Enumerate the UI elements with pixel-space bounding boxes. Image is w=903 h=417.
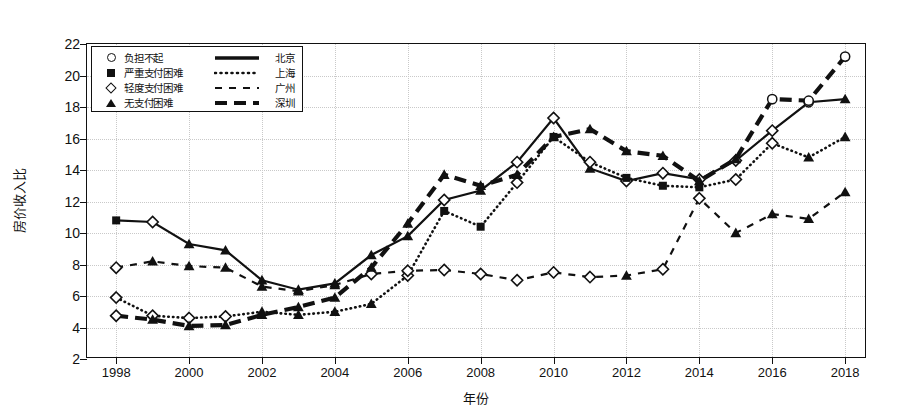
- data-point-triangle: [366, 298, 377, 308]
- y-tick-label: 12: [64, 195, 80, 209]
- x-tick-label: 2016: [758, 366, 787, 379]
- data-point-triangle: [329, 306, 340, 316]
- y-tick-label: 18: [64, 100, 80, 114]
- data-point-circle: [768, 95, 777, 104]
- data-point-square: [659, 182, 667, 190]
- legend-marker-circle-icon: [98, 53, 124, 62]
- y-tick-label: 14: [64, 163, 80, 177]
- legend-marker-label: 轻度支付困难: [124, 80, 208, 95]
- y-tick: [80, 265, 87, 266]
- data-point-triangle: [184, 261, 195, 271]
- data-point-triangle: [184, 239, 195, 249]
- chart-canvas: 房价收入比 年份 2468101214161820221998200020022…: [0, 0, 903, 417]
- data-point-square: [477, 223, 485, 231]
- data-point-diamond: [657, 264, 668, 275]
- y-tick-label: 8: [72, 258, 80, 272]
- data-point-diamond: [584, 272, 595, 283]
- y-tick: [80, 233, 87, 234]
- data-point-circle: [841, 52, 850, 61]
- legend: 负担不起北京严重支付困难上海轻度支付困难广州无支付困难深圳: [91, 46, 303, 112]
- data-point-diamond: [111, 292, 122, 303]
- x-tick-label: 2010: [539, 366, 568, 379]
- data-point-triangle: [220, 262, 231, 272]
- legend-series-label: 北京: [266, 50, 298, 65]
- x-tick-label: 1998: [102, 366, 131, 379]
- legend-series-label: 深圳: [266, 95, 298, 110]
- y-tick: [80, 296, 87, 297]
- data-point-diamond: [439, 264, 450, 275]
- y-tick-label: 20: [64, 69, 80, 83]
- circle-icon: [107, 53, 116, 62]
- legend-marker-square-icon: [98, 69, 124, 77]
- data-point-diamond: [548, 267, 559, 278]
- data-point-square: [112, 216, 120, 224]
- data-point-triangle: [366, 250, 377, 260]
- legend-line-sample: [208, 68, 266, 78]
- y-tick-label: 22: [64, 37, 80, 51]
- legend-marker-label: 负担不起: [124, 50, 208, 65]
- x-tick-label: 2000: [175, 366, 204, 379]
- diamond-icon: [105, 82, 116, 93]
- y-tick: [80, 328, 87, 329]
- legend-line-sample: [208, 83, 266, 93]
- legend-row: 轻度支付困难广州: [98, 80, 298, 95]
- y-tick-label: 4: [72, 321, 80, 335]
- data-point-diamond: [111, 262, 122, 273]
- y-tick: [80, 44, 87, 45]
- legend-marker-triangle-icon: [98, 99, 124, 107]
- series-广州: [111, 187, 851, 296]
- x-tick-label: 2004: [320, 366, 349, 379]
- data-point-diamond: [657, 168, 668, 179]
- data-point-circle: [804, 96, 813, 105]
- legend-marker-label: 无支付困难: [124, 95, 208, 110]
- x-tick-label: 2012: [612, 366, 641, 379]
- y-tick-label: 2: [72, 352, 80, 366]
- y-axis-title: 房价收入比: [9, 168, 28, 233]
- triangle-icon: [106, 99, 116, 107]
- legend-row: 无支付困难深圳: [98, 95, 298, 110]
- legend-series-label: 上海: [266, 65, 298, 80]
- data-point-triangle: [585, 124, 596, 134]
- data-point-square: [622, 174, 630, 182]
- data-point-diamond: [767, 138, 778, 149]
- legend-marker-diamond-icon: [98, 84, 124, 92]
- x-tick-label: 2018: [831, 366, 860, 379]
- data-point-square: [440, 207, 448, 215]
- legend-marker-label: 严重支付困难: [124, 65, 208, 80]
- y-tick: [80, 359, 87, 360]
- legend-row: 严重支付困难上海: [98, 65, 298, 80]
- x-tick-label: 2006: [393, 366, 422, 379]
- data-point-diamond: [694, 193, 705, 204]
- series-北京: [112, 94, 850, 294]
- y-tick-label: 16: [64, 132, 80, 146]
- x-tick-label: 2008: [466, 366, 495, 379]
- data-point-diamond: [511, 275, 522, 286]
- legend-line-sample: [208, 98, 266, 108]
- data-point-triangle: [730, 228, 741, 238]
- data-point-triangle: [840, 187, 851, 197]
- y-tick: [80, 107, 87, 108]
- data-point-triangle: [147, 256, 158, 266]
- x-tick-label: 2014: [685, 366, 714, 379]
- x-axis-title: 年份: [463, 388, 489, 407]
- y-tick-label: 10: [64, 226, 80, 240]
- data-point-diamond: [475, 268, 486, 279]
- y-tick: [80, 202, 87, 203]
- data-point-diamond: [147, 216, 158, 227]
- square-icon: [107, 69, 115, 77]
- data-point-diamond: [111, 310, 122, 321]
- data-point-diamond: [584, 157, 595, 168]
- legend-line-sample: [208, 53, 266, 63]
- y-tick: [80, 76, 87, 77]
- legend-row: 负担不起北京: [98, 50, 298, 65]
- y-tick-label: 6: [72, 289, 80, 303]
- legend-series-label: 广州: [266, 80, 298, 95]
- data-point-triangle: [840, 132, 851, 142]
- y-tick: [80, 139, 87, 140]
- y-tick: [80, 170, 87, 171]
- x-tick-label: 2002: [247, 366, 276, 379]
